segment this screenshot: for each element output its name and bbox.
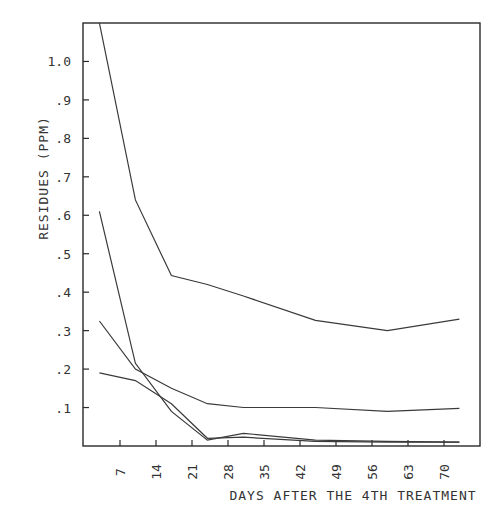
x-tick-label: 56: [365, 464, 380, 480]
y-tick-label: .3: [55, 324, 71, 339]
y-tick-label: .8: [55, 131, 71, 146]
x-tick-label: 35: [257, 464, 272, 480]
y-tick-label: 1.0: [48, 54, 71, 69]
x-tick-label: 63: [401, 464, 416, 480]
x-tick-label: 49: [329, 464, 344, 480]
series-3-line: [99, 321, 459, 411]
x-axis-title: DAYS AFTER THE 4TH TREATMENT: [229, 488, 476, 503]
y-tick-label: .7: [55, 170, 71, 185]
y-tick-label: .4: [55, 285, 71, 300]
y-tick-label: .9: [55, 93, 71, 108]
y-tick-label: .6: [55, 208, 71, 223]
x-tick-label: 7: [113, 468, 128, 476]
y-axis-title: RESIDUES (PPM): [36, 116, 51, 240]
x-tick-label: 21: [185, 464, 200, 480]
x-tick-label: 14: [149, 464, 164, 480]
x-tick-label: 42: [293, 464, 308, 480]
data-series: [99, 23, 459, 442]
series-1-line: [99, 23, 459, 331]
y-tick-label: .1: [55, 401, 71, 416]
line-chart: .1.2.3.4.5.6.7.8.91.0 714212835424956637…: [0, 0, 497, 518]
plot-frame: [83, 23, 480, 446]
y-tick-label: .5: [55, 247, 71, 262]
x-tick-label: 28: [221, 464, 236, 480]
y-tick-label: .2: [55, 362, 71, 377]
x-tick-label: 70: [437, 464, 452, 480]
